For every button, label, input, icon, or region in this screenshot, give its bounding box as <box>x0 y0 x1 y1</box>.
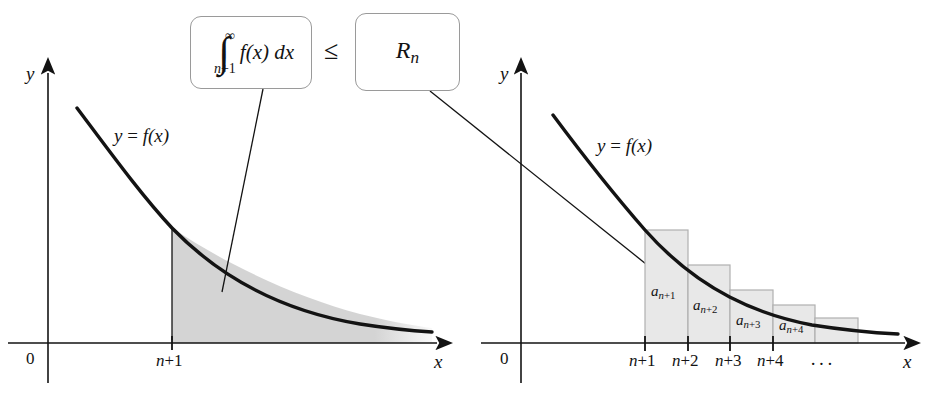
remainder-callout-box[interactable]: Rn <box>355 13 460 91</box>
left-tick-label-n-plus-1: n+1 <box>156 352 183 369</box>
integral-callout-box[interactable]: ∞ ∫ n+1 f(x) dx <box>190 16 312 89</box>
integral-lower-n: n <box>214 61 221 76</box>
left-curve-label-eq: = <box>122 125 142 146</box>
remainder-base: R <box>396 37 411 63</box>
left-origin-label: 0 <box>26 350 35 367</box>
rectangle-label-a-n-3: an+3 <box>736 313 760 330</box>
left-tick-plus: +1 <box>165 351 183 370</box>
right-origin-label: 0 <box>500 350 509 367</box>
rectangle-label-a-n-2: an+2 <box>693 298 717 315</box>
remainder-expression: Rn <box>396 37 419 68</box>
rl3-base: a <box>736 312 744 328</box>
less-than-or-equal-icon: ≤ <box>324 36 338 66</box>
right-curve-label-eq: = <box>605 135 625 156</box>
rt3-plus: +3 <box>724 351 742 370</box>
left-y-axis-label: y <box>26 64 34 83</box>
rl1-sub-plus: +1 <box>664 289 676 301</box>
rl2-base: a <box>693 297 701 313</box>
rl4-base: a <box>779 317 787 333</box>
rt1-n: n <box>629 351 638 370</box>
integral-callout-content: ∞ ∫ n+1 f(x) dx <box>191 17 311 88</box>
right-y-axis-label: y <box>500 64 508 83</box>
rt1-plus: +1 <box>638 351 656 370</box>
left-shaded-area <box>172 228 432 343</box>
integral-lower-limit: n+1 <box>214 62 236 76</box>
left-x-axis-label: x <box>434 352 442 371</box>
right-tick-label-n-plus-2: n+2 <box>672 352 699 369</box>
diagram-vector-layer <box>0 0 927 395</box>
remainder-callout-content: Rn <box>356 14 459 90</box>
rl2-sub-plus: +2 <box>706 303 718 315</box>
right-axis-ellipsis: ··· <box>810 354 835 373</box>
integral-expression: ∞ ∫ n+1 f(x) dx <box>208 29 294 77</box>
right-x-axis-label: x <box>903 352 911 371</box>
remainder-subscript: n <box>411 47 420 66</box>
left-curve-label: y = f(x) <box>114 126 169 145</box>
integral-integrand: f(x) dx <box>240 40 294 65</box>
rt2-plus: +2 <box>681 351 699 370</box>
rectangle-label-a-n-1: an+1 <box>651 284 675 301</box>
rl4-sub-plus: +4 <box>792 323 804 335</box>
rl1-base: a <box>651 283 659 299</box>
integral-callout-leader-line <box>222 89 263 292</box>
left-curve-label-arg: (x) <box>148 125 169 146</box>
rt4-plus: +4 <box>766 351 784 370</box>
remainder-callout-leader-line <box>430 91 646 264</box>
right-curve-label: y = f(x) <box>597 136 652 155</box>
right-panel-group <box>481 73 905 383</box>
left-tick-n: n <box>156 351 165 370</box>
rectangle-label-a-n-4: an+4 <box>779 318 803 335</box>
rt4-n: n <box>757 351 766 370</box>
left-panel-group <box>8 73 437 383</box>
integral-sign-group: ∞ ∫ n+1 <box>212 29 236 77</box>
figure-canvas: y 0 x y = f(x) n+1 y 0 x y = f(x) n+1 n+… <box>0 0 927 395</box>
rl3-sub-plus: +3 <box>749 318 761 330</box>
right-tick-label-n-plus-1: n+1 <box>629 352 656 369</box>
integral-lower-plus: +1 <box>221 61 236 76</box>
right-tick-label-n-plus-4: n+4 <box>757 352 784 369</box>
right-curve-label-arg: (x) <box>631 135 652 156</box>
right-tick-label-n-plus-3: n+3 <box>715 352 742 369</box>
rt2-n: n <box>672 351 681 370</box>
rt3-n: n <box>715 351 724 370</box>
